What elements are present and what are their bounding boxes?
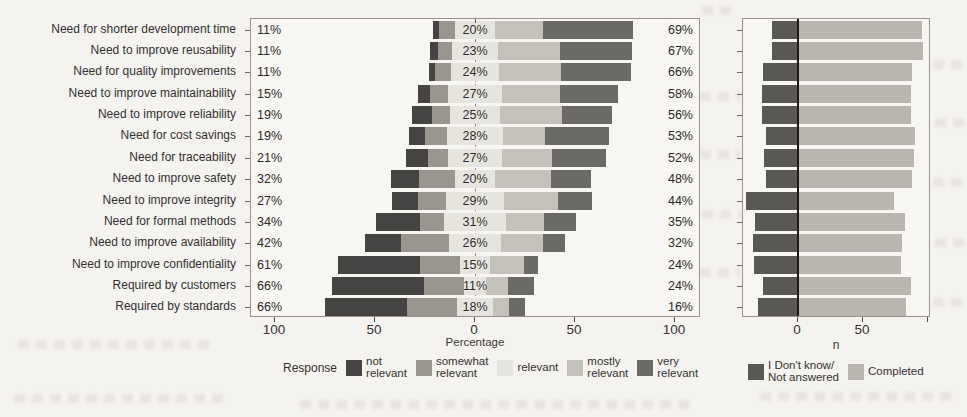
neutral-percent-label: 20% bbox=[462, 19, 487, 40]
response-legend-item: notrelevant bbox=[346, 356, 407, 379]
neutral-percent-label: 23% bbox=[462, 40, 487, 61]
low-percent-label: 11% bbox=[257, 40, 281, 61]
neutral-percent-label: 31% bbox=[462, 211, 487, 232]
category-label: Need to improve maintainability bbox=[0, 82, 236, 103]
y-axis-tick bbox=[245, 307, 250, 308]
bar-segment-mostly-relevant bbox=[498, 42, 560, 60]
y-axis-tick bbox=[737, 179, 742, 180]
category-label: Need for quality improvements bbox=[0, 61, 236, 82]
bar-segment-completed bbox=[798, 192, 894, 210]
neutral-percent-label: 20% bbox=[462, 169, 487, 190]
bar-segment-mostly-relevant bbox=[493, 298, 509, 316]
bar-segment-very-relevant bbox=[551, 170, 591, 188]
y-axis-tick bbox=[245, 30, 250, 31]
bar-segment-very-relevant bbox=[543, 234, 565, 252]
high-percent-label: 58% bbox=[668, 83, 693, 104]
response-legend: Response notrelevantsomewhatrelevantrele… bbox=[283, 356, 707, 379]
response-legend-swatch bbox=[637, 360, 653, 376]
scan-artifact bbox=[935, 238, 965, 247]
y-axis-tick bbox=[245, 115, 250, 116]
bar-segment-completed bbox=[798, 21, 922, 39]
y-axis-tick bbox=[737, 201, 742, 202]
scan-artifact bbox=[300, 400, 690, 409]
y-axis-tick bbox=[245, 51, 250, 52]
bar-segment-completed bbox=[798, 256, 901, 274]
y-axis-tick bbox=[737, 243, 742, 244]
bar-segment-somewhat-relevant bbox=[432, 106, 450, 124]
low-percent-label: 19% bbox=[257, 126, 282, 147]
category-label: Need to improve confidentiality bbox=[0, 253, 236, 274]
bar-segment-completed bbox=[798, 213, 905, 231]
bar-segment-very-relevant bbox=[544, 213, 576, 231]
bar-segment-somewhat-relevant bbox=[418, 192, 446, 210]
category-label: Need to improve safety bbox=[0, 168, 236, 189]
bar-segment-somewhat-relevant bbox=[435, 63, 451, 81]
bar-segment-dont-know bbox=[772, 21, 798, 39]
n-legend-label: I Don't know/Not answered bbox=[768, 360, 839, 383]
percentage-axis-tick-label: 50 bbox=[566, 322, 581, 337]
category-label: Required by standards bbox=[0, 296, 236, 317]
y-axis-tick bbox=[245, 222, 250, 223]
y-axis-tick bbox=[245, 136, 250, 137]
high-percent-label: 56% bbox=[668, 104, 693, 125]
high-percent-label: 24% bbox=[668, 275, 693, 296]
bar-segment-dont-know bbox=[755, 213, 798, 231]
category-label: Need for shorter development time bbox=[0, 18, 236, 39]
bar-segment-very-relevant bbox=[509, 298, 525, 316]
bar-segment-somewhat-relevant bbox=[401, 234, 449, 252]
y-axis-tick bbox=[737, 265, 742, 266]
category-label: Need for traceability bbox=[0, 146, 236, 167]
neutral-percent-label: 25% bbox=[462, 104, 487, 125]
response-legend-swatch bbox=[346, 360, 362, 376]
y-axis-tick bbox=[737, 94, 742, 95]
bar-segment-not-relevant bbox=[365, 234, 401, 252]
bar-segment-very-relevant bbox=[508, 277, 534, 295]
response-legend-label: mostlyrelevant bbox=[587, 356, 628, 379]
bar-segment-completed bbox=[798, 277, 911, 295]
scan-artifact bbox=[700, 268, 740, 277]
high-percent-label: 52% bbox=[668, 147, 693, 168]
high-percent-label: 32% bbox=[668, 233, 693, 254]
y-axis-tick bbox=[737, 30, 742, 31]
bar-segment-not-relevant bbox=[332, 277, 424, 295]
category-label: Required by customers bbox=[0, 274, 236, 295]
neutral-percent-label: 27% bbox=[462, 147, 487, 168]
y-axis-tick bbox=[737, 136, 742, 137]
n-legend-items: I Don't know/Not answeredCompleted bbox=[748, 360, 933, 383]
high-percent-label: 66% bbox=[668, 62, 693, 83]
bar-segment-dont-know bbox=[772, 42, 798, 60]
low-percent-label: 66% bbox=[257, 275, 282, 296]
y-axis-tick bbox=[737, 72, 742, 73]
neutral-percent-label: 11% bbox=[463, 275, 487, 296]
response-legend-swatch bbox=[497, 360, 513, 376]
bar-segment-very-relevant bbox=[545, 127, 609, 145]
n-zero-line bbox=[797, 19, 799, 316]
y-axis-tick bbox=[245, 179, 250, 180]
y-axis-tick bbox=[737, 307, 742, 308]
y-axis-tick bbox=[245, 158, 250, 159]
scan-artifact bbox=[18, 340, 213, 349]
response-legend-swatch bbox=[567, 360, 583, 376]
response-legend-item: mostlyrelevant bbox=[567, 356, 628, 379]
bar-segment-mostly-relevant bbox=[506, 213, 544, 231]
bar-segment-dont-know bbox=[763, 63, 798, 81]
bar-segment-completed bbox=[798, 106, 911, 124]
category-label: Need for formal methods bbox=[0, 210, 236, 231]
bar-segment-dont-know bbox=[753, 234, 799, 252]
bar-segment-dont-know bbox=[763, 277, 798, 295]
bar-segment-completed bbox=[798, 298, 906, 316]
scan-artifact bbox=[700, 92, 740, 101]
bar-segment-completed bbox=[798, 85, 911, 103]
response-legend-label: relevant bbox=[517, 362, 558, 374]
neutral-percent-label: 29% bbox=[462, 190, 487, 211]
neutral-percent-label: 27% bbox=[462, 83, 487, 104]
high-percent-label: 48% bbox=[668, 169, 693, 190]
neutral-percent-label: 15% bbox=[462, 254, 487, 275]
low-percent-label: 19% bbox=[257, 104, 282, 125]
low-percent-label: 42% bbox=[257, 233, 282, 254]
high-percent-label: 69% bbox=[668, 19, 693, 40]
bar-segment-dont-know bbox=[766, 127, 799, 145]
y-axis-tick bbox=[737, 115, 742, 116]
low-percent-label: 11% bbox=[257, 19, 281, 40]
bar-segment-mostly-relevant bbox=[490, 256, 524, 274]
